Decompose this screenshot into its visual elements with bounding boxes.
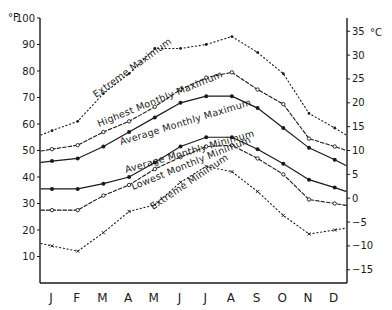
right-tick-label: −5 bbox=[352, 217, 367, 228]
right-tick-label: 15 bbox=[352, 121, 365, 132]
month-label: D bbox=[329, 291, 338, 305]
data-point bbox=[101, 145, 105, 149]
data-point bbox=[256, 190, 259, 193]
data-point bbox=[101, 182, 105, 186]
data-point bbox=[281, 126, 285, 130]
left-tick-label: 60 bbox=[22, 119, 35, 130]
chart-canvas: 102030405060708090100°F35302520151050−5−… bbox=[0, 0, 392, 310]
left-tick-label: 100 bbox=[16, 13, 35, 24]
data-point bbox=[205, 43, 208, 46]
data-point bbox=[333, 202, 336, 205]
data-point bbox=[333, 145, 336, 148]
data-point bbox=[333, 158, 337, 162]
series-labels: Extreme Maximum Highest Monthly Maximum … bbox=[91, 35, 256, 211]
right-tick-label: 0 bbox=[352, 193, 358, 204]
data-point bbox=[102, 130, 105, 133]
left-tick-label: 30 bbox=[22, 198, 35, 209]
data-point bbox=[204, 135, 208, 139]
data-point bbox=[307, 146, 311, 150]
data-point bbox=[76, 144, 79, 147]
data-point bbox=[307, 137, 310, 140]
data-point bbox=[76, 156, 80, 160]
data-point bbox=[76, 187, 80, 191]
data-point bbox=[76, 120, 79, 123]
fahrenheit-unit-label: °F bbox=[8, 12, 19, 23]
left-tick-label: 90 bbox=[22, 39, 35, 50]
data-point bbox=[230, 170, 233, 173]
left-tick-label: 40 bbox=[22, 172, 35, 183]
right-tick-label: 30 bbox=[352, 50, 365, 61]
data-point bbox=[102, 194, 105, 197]
month-label: A bbox=[124, 291, 133, 305]
data-point bbox=[179, 47, 182, 50]
temperature-chart: 102030405060708090100°F35302520151050−5−… bbox=[0, 0, 392, 310]
right-tick-label: −15 bbox=[352, 264, 373, 275]
left-tick-label: 70 bbox=[22, 92, 35, 103]
right-tick-label: −10 bbox=[352, 240, 373, 251]
celsius-unit-label: °C bbox=[370, 27, 382, 38]
data-point bbox=[256, 51, 259, 54]
left-tick-label: 80 bbox=[22, 66, 35, 77]
data-point bbox=[281, 162, 285, 166]
right-tick-label: 35 bbox=[352, 26, 365, 37]
data-point bbox=[256, 88, 259, 91]
data-point bbox=[282, 102, 285, 105]
data-point bbox=[256, 106, 260, 110]
data-point bbox=[231, 35, 234, 38]
month-label: N bbox=[304, 291, 313, 305]
data-point bbox=[179, 101, 183, 105]
month-label: J bbox=[177, 291, 182, 305]
month-label: A bbox=[227, 291, 236, 305]
left-tick-label: 50 bbox=[22, 145, 35, 156]
data-point bbox=[204, 94, 208, 98]
right-tick-label: 25 bbox=[352, 73, 365, 84]
data-point bbox=[50, 159, 54, 163]
data-point bbox=[127, 120, 130, 123]
data-point bbox=[127, 175, 131, 179]
month-label: M bbox=[97, 291, 107, 305]
data-point bbox=[76, 208, 79, 211]
label-extreme-maximum: Extreme Maximum bbox=[91, 35, 174, 99]
data-point bbox=[51, 129, 54, 132]
month-label: S bbox=[253, 291, 261, 305]
left-tick-label: 20 bbox=[22, 225, 35, 236]
month-label: J bbox=[202, 291, 207, 305]
data-point bbox=[230, 94, 234, 98]
data-point bbox=[50, 187, 54, 191]
left-tick-label: 10 bbox=[22, 251, 35, 262]
right-tick-label: 5 bbox=[352, 169, 358, 180]
data-point bbox=[282, 173, 285, 176]
month-label: F bbox=[73, 291, 80, 305]
data-point bbox=[307, 178, 311, 182]
month-label: J bbox=[48, 291, 53, 305]
data-point bbox=[333, 127, 336, 130]
data-point bbox=[282, 214, 285, 217]
data-point bbox=[102, 231, 105, 234]
data-point bbox=[307, 198, 310, 201]
data-point bbox=[50, 147, 53, 150]
right-tick-label: 20 bbox=[352, 97, 365, 108]
data-point bbox=[76, 250, 79, 253]
right-tick-label: 10 bbox=[352, 145, 365, 156]
month-label: O bbox=[278, 291, 287, 305]
data-point bbox=[230, 71, 233, 74]
data-point bbox=[308, 112, 311, 115]
data-point bbox=[282, 72, 285, 75]
data-point bbox=[50, 208, 53, 211]
data-point bbox=[333, 186, 337, 190]
data-point bbox=[153, 115, 157, 119]
data-point bbox=[256, 147, 260, 151]
data-point bbox=[256, 157, 259, 160]
month-label: M bbox=[149, 291, 159, 305]
